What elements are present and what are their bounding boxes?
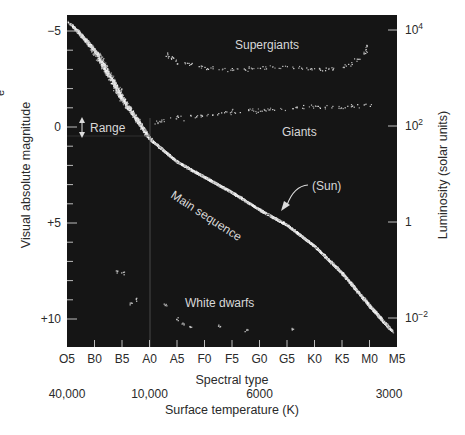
x-axis-title: Spectral type — [196, 373, 269, 387]
y-left-tick-label: +5 — [47, 216, 61, 230]
y-right-tick-label: 104 — [405, 21, 423, 37]
x-tick-label: K0 — [307, 352, 322, 366]
label-sun: (Sun) — [312, 179, 341, 193]
y-right-tick-label: 1 — [405, 215, 412, 229]
label-giants: Giants — [282, 125, 317, 139]
y-axis-right-title: Luminosity (solar units) — [436, 111, 450, 240]
temperature-tick-label: 10,000 — [131, 387, 168, 401]
x-axis-temperature-title: Surface temperature (K) — [165, 403, 299, 417]
temperature-tick-label: 6000 — [246, 387, 273, 401]
label-white-dwarfs: White dwarfs — [185, 296, 254, 310]
label-supergiants: Supergiants — [235, 38, 299, 52]
y-right-tick-label: 10−2 — [405, 309, 428, 325]
label-range: Range — [90, 121, 126, 135]
x-tick-label: M0 — [361, 352, 378, 366]
x-tick-label: G5 — [279, 352, 295, 366]
y-right-tick-label: 102 — [405, 117, 423, 133]
x-tick-label: B0 — [87, 352, 102, 366]
x-tick-label: A5 — [170, 352, 185, 366]
edge-fragment-text: e — [0, 90, 6, 96]
x-tick-label: A0 — [142, 352, 157, 366]
x-tick-label: G0 — [251, 352, 267, 366]
y-left-tick-label: +10 — [41, 312, 62, 326]
x-tick-label: F0 — [197, 352, 211, 366]
temperature-tick-label: 3000 — [376, 387, 403, 401]
y-left-tick-label: 0 — [54, 120, 61, 134]
y-left-tick-label: −5 — [47, 24, 61, 38]
x-tick-label: O5 — [59, 352, 75, 366]
hr-diagram-chart: −50+5+10 104102110−2 O5B0B5A0A5F0F5G0G5K… — [0, 0, 465, 435]
temperature-tick-label: 40,000 — [49, 387, 86, 401]
y-axis-left-title: Visual absolute magnitude — [19, 102, 33, 248]
x-tick-label: F5 — [225, 352, 239, 366]
x-axis-temperature: 40,00010,00060003000 — [49, 387, 403, 401]
x-tick-label: M5 — [389, 352, 406, 366]
x-tick-label: K5 — [335, 352, 350, 366]
x-tick-label: B5 — [115, 352, 130, 366]
